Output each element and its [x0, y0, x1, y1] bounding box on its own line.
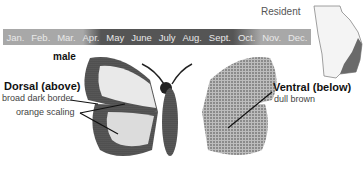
dorsal-note-orange: orange scaling: [16, 107, 75, 117]
sex-label: male: [53, 51, 76, 62]
dorsal-note-border: broad dark border: [2, 93, 74, 103]
ventral-note: dull brown: [274, 94, 315, 104]
dorsal-title: Dorsal (above): [4, 80, 80, 92]
ventral-title: Ventral (below): [273, 81, 351, 93]
